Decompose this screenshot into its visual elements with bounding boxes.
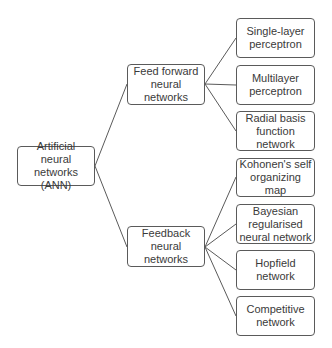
node-bayesian-regularised: Bayesian regularised neural network [236, 204, 315, 244]
ann-taxonomy-diagram: Artificial neural networks (ANN) Feed fo… [0, 0, 332, 348]
node-label: Kohonen's self organizing map [239, 158, 312, 197]
node-multilayer-perceptron: Multilayer perceptron [236, 65, 315, 105]
node-label: Feed forward neural networks [134, 65, 199, 104]
node-ann-root: Artificial neural networks (ANN) [17, 146, 95, 186]
node-label: Feedback neural networks [142, 227, 190, 266]
edge-feedforward-multi [205, 84, 236, 85]
node-label: Radial basis function network [246, 112, 306, 151]
node-feed-forward: Feed forward neural networks [127, 64, 205, 105]
node-competitive: Competitive network [236, 296, 315, 336]
node-hopfield: Hopfield network [236, 250, 315, 290]
node-label: Artificial neural networks (ANN) [20, 140, 92, 192]
node-kohonen-som: Kohonen's self organizing map [236, 158, 315, 197]
edge-root-feedback [95, 166, 127, 247]
node-label: Multilayer perceptron [249, 72, 302, 98]
node-single-layer-perceptron: Single-layer perceptron [236, 18, 315, 58]
node-radial-basis-function: Radial basis function network [236, 111, 315, 151]
edge-root-feedforward [95, 84, 127, 166]
node-label: Bayesian regularised neural network [239, 205, 311, 244]
edge-feedforward-single [205, 38, 236, 84]
node-label: Single-layer perceptron [246, 25, 304, 51]
node-label: Hopfield network [255, 257, 295, 283]
edge-feedback-competitive [205, 247, 236, 316]
node-feedback: Feedback neural networks [127, 226, 205, 267]
node-label: Competitive network [246, 303, 304, 329]
edge-feedforward-radial [205, 84, 236, 131]
edge-feedback-kohonen [205, 177, 236, 247]
